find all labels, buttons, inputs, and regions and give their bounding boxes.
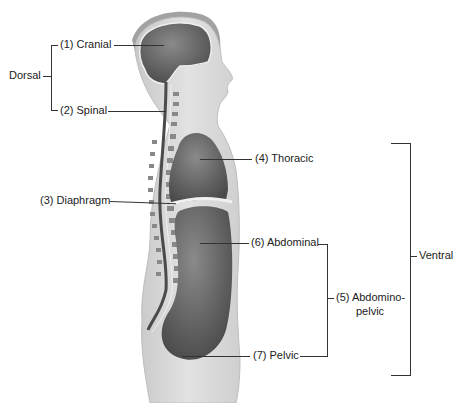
- label-abdominal: (6) Abdominal: [251, 236, 319, 249]
- label-pelvic: (7) Pelvic: [253, 349, 299, 362]
- dorsal-bracket-tick: [43, 76, 51, 77]
- label-thoracic: (4) Thoracic: [255, 152, 313, 165]
- label-spinal: (2) Spinal: [60, 104, 107, 117]
- leader-spinal: [108, 111, 166, 112]
- label-ventral: Ventral: [419, 249, 453, 262]
- leader-cranial: [114, 45, 164, 46]
- label-abdominopelvic: (5) Abdomino-: [336, 291, 405, 304]
- ventral-bracket: [410, 143, 411, 376]
- abdominopelvic-bracket: [327, 244, 328, 357]
- leader-pelvic: [182, 356, 250, 357]
- label-abdominopelvic-cont: pelvic: [356, 305, 384, 318]
- label-cranial: (1) Cranial: [60, 38, 111, 51]
- leader-abdominal: [200, 243, 249, 244]
- label-dorsal: Dorsal: [9, 69, 41, 82]
- body-cavities-diagram: Dorsal (1) Cranial (2) Spinal (3) Diaphr…: [0, 0, 467, 403]
- leader-thoracic: [200, 159, 252, 160]
- dorsal-bracket: [51, 45, 52, 111]
- label-diaphragm: (3) Diaphragm: [40, 194, 110, 207]
